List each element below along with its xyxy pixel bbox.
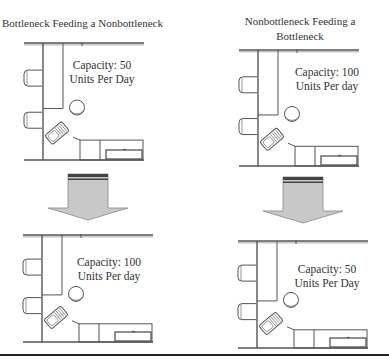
- arrow-down-icon: [263, 177, 343, 223]
- equipment-icon: [260, 128, 285, 151]
- workstation-top-right: [239, 49, 359, 166]
- equipment-icon: [259, 312, 284, 335]
- desk-drawer: [330, 338, 366, 347]
- swivel-chair-icon: [285, 106, 300, 121]
- swivel-chair-icon: [69, 286, 84, 301]
- workstation-bottom-left: [23, 234, 153, 342]
- swivel-chair-icon: [284, 292, 299, 307]
- desk-drawer: [106, 150, 142, 159]
- chair-icon: [238, 265, 256, 281]
- desk-corner: [73, 137, 80, 140]
- chair-icon: [239, 77, 257, 93]
- chair-icon: [238, 304, 256, 320]
- workstation-diagram: [0, 0, 389, 363]
- desk-corner: [287, 327, 294, 330]
- arrow-band: [283, 177, 323, 180]
- equipment-icon: [44, 306, 69, 329]
- arrow-band: [68, 174, 108, 177]
- desk-drawer: [321, 156, 357, 165]
- desk-corner: [288, 143, 295, 146]
- workstation-bottom-right: [238, 240, 368, 348]
- arrow-band-thin: [68, 179, 108, 181]
- transition-arrow-right: [263, 177, 343, 223]
- transition-arrow-left: [48, 174, 128, 220]
- equipment-icon: [45, 121, 70, 144]
- workstation-top-left: [24, 42, 144, 160]
- arrow-band-thin: [283, 182, 323, 184]
- swivel-chair-icon: [70, 100, 85, 115]
- arrow-down-icon: [48, 174, 128, 220]
- desk-corner: [72, 321, 79, 324]
- chair-icon: [239, 119, 257, 135]
- desk-drawer: [115, 332, 151, 341]
